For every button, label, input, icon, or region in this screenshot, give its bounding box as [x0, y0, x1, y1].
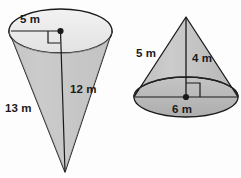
left-cone-center-dot: [57, 28, 63, 34]
right-cone-slant-label: 5 m: [136, 47, 156, 59]
right-cone-diameter-label: 6 m: [172, 103, 192, 115]
cone-diagram-svg: 5 m 12 m 13 m 5 m 4 m 6 m: [0, 0, 241, 178]
right-cone-center-dot: [183, 94, 189, 100]
left-cone-radius-label: 5 m: [20, 13, 40, 25]
cone-figure-container: 5 m 12 m 13 m 5 m 4 m 6 m: [0, 0, 241, 178]
left-cone-height-label: 12 m: [70, 83, 97, 95]
right-cone-group: 5 m 4 m 6 m: [134, 17, 238, 117]
right-cone-height-label: 4 m: [192, 52, 212, 64]
left-cone-slant-label: 13 m: [5, 102, 32, 114]
left-cone-group: 5 m 12 m 13 m: [5, 9, 112, 172]
